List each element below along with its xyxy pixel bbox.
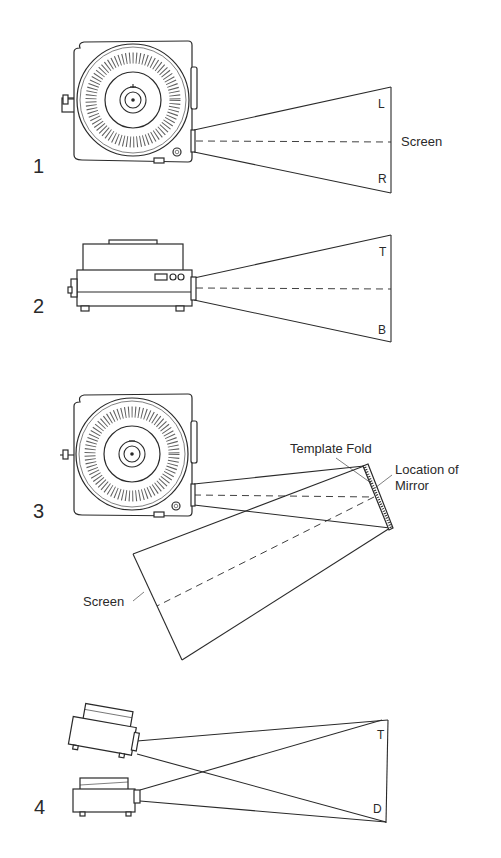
lower-projector [73,778,140,816]
projector-side-view [68,240,196,311]
figure-number: 2 [33,296,44,316]
template-fold-label: Template Fold [290,442,372,455]
screen-label: Screen [83,595,124,608]
upper-projector [68,702,143,760]
screen-edge-label-left: L [378,98,385,110]
figure-number: 3 [33,501,44,521]
screen-edge-label-top: T [377,729,384,741]
screen-label: Screen [401,135,442,148]
projection-diagram [0,0,501,858]
mirror-leader [375,475,392,488]
screen-leader [133,592,144,601]
mirror-location-label-line1: Location of [395,463,459,476]
mirror-location-label-line2: Mirror [395,479,429,492]
figure-number: 4 [34,797,45,817]
screen-edge-label-top: T [379,246,386,258]
figure-1-drawing [62,41,391,193]
figure-3-drawing [60,394,393,660]
screen-edge-label-bottom: D [373,803,382,815]
screen-edge-label-bottom: B [378,324,386,336]
figure-number: 1 [33,156,44,176]
projection-beam [194,87,391,193]
figure-2-drawing [68,235,391,342]
screen-edge-label-right: R [378,173,387,185]
projector-top-view [60,394,197,517]
projector-top-view [62,41,197,163]
converging-beams [137,720,388,823]
projection-beam [194,235,391,342]
figure-4-drawing [68,702,388,823]
